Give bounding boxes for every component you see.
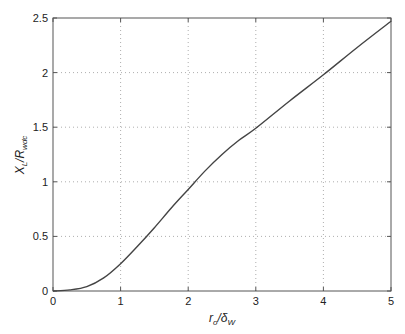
y-tick-label: 1 [42,176,48,188]
y-tick-label: 2.5 [33,12,48,24]
y-tick-label: 0 [42,285,48,297]
y-tick-label: 0.5 [33,230,48,242]
y-tick-label: 2 [42,67,48,79]
data-line [53,21,391,291]
chart: 012345 00.511.522.5 ro/δW XL/Rwdc [0,0,405,334]
x-tick-label: 1 [118,295,124,307]
y-axis-label: XL/Rwdc [13,136,29,176]
x-axis-ticks: 012345 [50,18,394,307]
x-tick-label: 0 [50,295,56,307]
x-tick-label: 3 [253,295,259,307]
y-tick-label: 1.5 [33,121,48,133]
x-tick-label: 4 [320,295,326,307]
x-tick-label: 5 [388,295,394,307]
y-axis-ticks: 00.511.522.5 [33,12,391,297]
x-axis-label: ro/δW [209,311,236,327]
x-tick-label: 2 [185,295,191,307]
